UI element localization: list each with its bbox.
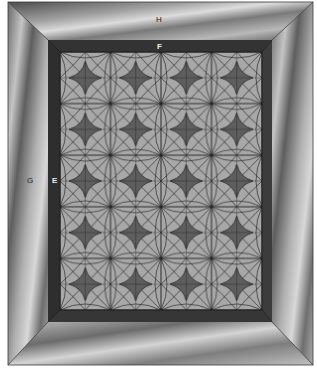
quilt-center-blocks: [60, 52, 262, 310]
quilt-svg: [0, 0, 317, 372]
label-h: H: [156, 16, 162, 24]
outer-border-bottom: [8, 322, 313, 365]
quilt-diagram: H F G E: [0, 0, 317, 372]
label-e: E: [52, 177, 57, 185]
label-f: F: [157, 43, 162, 51]
label-g: G: [27, 177, 33, 185]
outer-border-right: [272, 2, 313, 365]
